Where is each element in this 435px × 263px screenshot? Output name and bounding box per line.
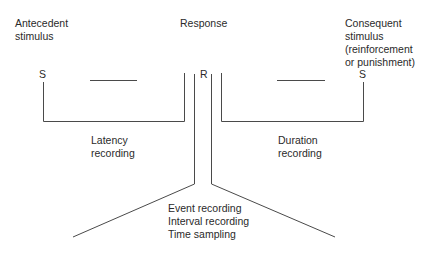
aba-recording-diagram: Antecedent stimulus Response Consequent … (0, 0, 435, 263)
antecedent-stimulus-label: Antecedent stimulus (15, 17, 68, 43)
response-label: Response (180, 17, 227, 30)
duration-recording-label: Duration recording (278, 134, 322, 160)
latency-recording-label: Latency recording (91, 134, 135, 160)
s-right: S (359, 68, 366, 81)
consequent-stimulus-label: Consequent stimulus (reinforcement or pu… (345, 17, 415, 69)
r-mid: R (200, 68, 208, 81)
s-left: S (39, 68, 46, 81)
bottom-recording-methods: Event recording Interval recording Time … (168, 202, 249, 241)
